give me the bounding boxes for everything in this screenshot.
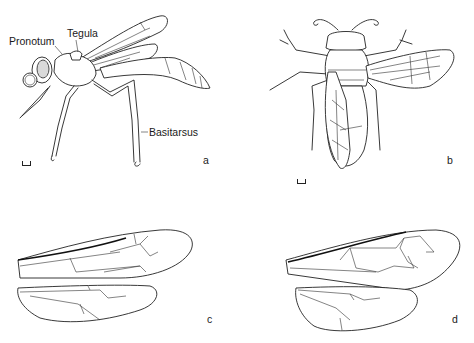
scale-bar [22, 161, 31, 166]
panel-letter-d: d [452, 313, 458, 325]
panel-b: b [240, 0, 474, 190]
panel-a: Pronotum Tegula Basitarsus a [0, 0, 240, 190]
panel-letter-b: b [447, 154, 453, 166]
panel-c: c [0, 190, 240, 343]
panel-letter-c: c [207, 313, 212, 325]
wasp-dorsal-drawing [240, 0, 474, 190]
label-basitarsus: Basitarsus [149, 126, 198, 138]
scale-bar [297, 179, 306, 184]
wings-c-drawing [0, 190, 240, 343]
wings-d-drawing [240, 190, 474, 343]
label-pronotum: Pronotum [9, 35, 55, 47]
label-tegula: Tegula [67, 27, 98, 39]
panel-d: d [240, 190, 474, 343]
panel-letter-a: a [203, 154, 209, 166]
